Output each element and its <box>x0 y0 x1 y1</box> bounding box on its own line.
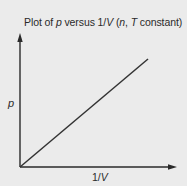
y-axis-label: p <box>8 97 14 109</box>
x-axis-arrow-icon <box>168 164 177 169</box>
x-label-prefix: 1/ <box>92 171 101 183</box>
x-axis-label: 1/V <box>92 171 108 183</box>
plot-area <box>0 0 187 186</box>
data-line <box>20 59 148 167</box>
y-axis-arrow-icon <box>17 33 22 42</box>
x-label-var: V <box>101 171 108 183</box>
